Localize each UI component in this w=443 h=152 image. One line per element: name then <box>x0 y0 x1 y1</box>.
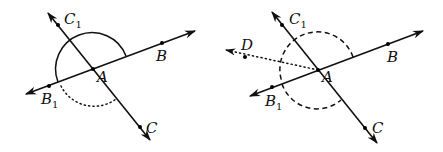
label-b1: B1 <box>264 92 282 112</box>
line-bb1 <box>26 31 195 94</box>
label-b: B <box>155 47 167 65</box>
label-b1: B1 <box>40 90 58 110</box>
point-b <box>386 42 390 46</box>
point-b1 <box>270 85 274 89</box>
point-b1 <box>47 84 51 88</box>
point-c1 <box>280 23 284 27</box>
geometry-figure: A B B1 C C1 A B B1 C C1 D <box>0 0 443 152</box>
label-b: B <box>386 48 398 66</box>
point-b <box>160 41 164 45</box>
point-d <box>243 55 247 59</box>
label-c1: C1 <box>64 10 82 30</box>
point-a <box>316 68 320 72</box>
point-c <box>138 125 142 129</box>
dashed-arc-upper <box>280 32 353 82</box>
solid-arc <box>56 33 126 82</box>
label-d: D <box>240 36 253 54</box>
point-c1 <box>56 23 60 27</box>
point-c <box>363 126 367 130</box>
label-a: A <box>95 68 108 86</box>
label-c: C <box>372 119 384 137</box>
label-a: A <box>320 68 333 86</box>
left-figure: A B B1 C C1 <box>26 10 195 140</box>
right-figure: A B B1 C C1 D <box>226 10 423 143</box>
dotted-arc <box>61 86 116 106</box>
point-a <box>91 67 95 71</box>
label-c: C <box>146 119 158 137</box>
label-c1: C1 <box>289 10 307 30</box>
diagram-canvas: A B B1 C C1 A B B1 C C1 D <box>0 0 443 152</box>
